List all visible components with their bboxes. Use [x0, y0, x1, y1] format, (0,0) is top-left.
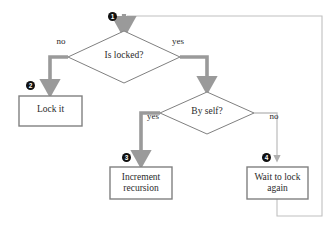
node-is-locked-shape[interactable] — [68, 31, 180, 83]
node-increment-recursion-shape[interactable] — [110, 167, 172, 199]
flowchart-canvas: Lock it --> By self? --> Increment recur… — [0, 0, 336, 226]
node-lock-it-shape[interactable] — [19, 96, 82, 126]
flowchart-graphics: Lock it --> By self? --> Increment recur… — [0, 0, 336, 226]
badge-3: 3 — [122, 153, 131, 162]
edge-label-is-locked-no: no — [52, 36, 70, 46]
edge-is-locked-no — [50, 57, 68, 88]
edge-label-by-self-yes: yes — [143, 111, 163, 121]
badge-4: 4 — [262, 153, 271, 162]
edge-label-by-self-no: no — [265, 111, 283, 121]
edge-label-is-locked-yes: yes — [168, 36, 188, 46]
node-by-self-shape[interactable] — [160, 92, 254, 134]
badge-1: 1 — [108, 12, 117, 21]
edge-is-locked-yes — [180, 57, 207, 85]
badge-2: 2 — [26, 81, 35, 90]
node-wait-to-lock-again-shape[interactable] — [247, 167, 308, 199]
